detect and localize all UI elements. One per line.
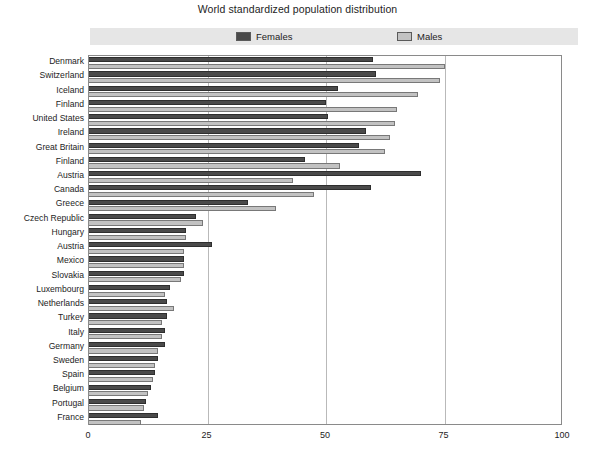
y-axis-label: Czech Republic — [0, 214, 84, 223]
bar-row — [89, 127, 561, 141]
bar-males[interactable] — [89, 107, 397, 112]
bar-males[interactable] — [89, 135, 390, 140]
bar-females[interactable] — [89, 100, 326, 105]
bar-females[interactable] — [89, 285, 170, 290]
bar-females[interactable] — [89, 356, 158, 361]
bar-males[interactable] — [89, 220, 203, 225]
bar-females[interactable] — [89, 228, 186, 233]
chart-root: World standardized population distributi… — [0, 0, 595, 453]
bar-row — [89, 284, 561, 298]
bar-females[interactable] — [89, 143, 359, 148]
bar-males[interactable] — [89, 377, 153, 382]
bar-males[interactable] — [89, 391, 148, 396]
bar-row — [89, 170, 561, 184]
legend-entry-males[interactable]: Males — [397, 32, 442, 42]
chart-legend: Females Males — [90, 28, 578, 45]
y-axis-label: Slovakia — [0, 271, 84, 280]
bar-row — [89, 156, 561, 170]
bar-females[interactable] — [89, 171, 421, 176]
bar-females[interactable] — [89, 399, 146, 404]
y-axis-label: Sweden — [0, 356, 84, 365]
bar-males[interactable] — [89, 92, 418, 97]
bar-row — [89, 369, 561, 383]
bar-females[interactable] — [89, 342, 165, 347]
bar-males[interactable] — [89, 192, 314, 197]
y-axis-label: Great Britain — [0, 143, 84, 152]
y-axis-label: Germany — [0, 342, 84, 351]
bar-row — [89, 269, 561, 283]
bar-row — [89, 141, 561, 155]
bar-females[interactable] — [89, 185, 371, 190]
bar-males[interactable] — [89, 163, 340, 168]
bar-females[interactable] — [89, 370, 155, 375]
legend-swatch-females-icon — [236, 32, 251, 41]
bar-males[interactable] — [89, 149, 385, 154]
bar-row — [89, 255, 561, 269]
y-axis-label: Denmark — [0, 57, 84, 66]
y-axis-label: Canada — [0, 185, 84, 194]
y-axis-label: France — [0, 413, 84, 422]
bar-females[interactable] — [89, 271, 184, 276]
bar-males[interactable] — [89, 277, 181, 282]
bar-females[interactable] — [89, 256, 184, 261]
bar-row — [89, 184, 561, 198]
y-axis-label: United States — [0, 114, 84, 123]
x-tick-label-50: 50 — [320, 430, 330, 440]
bar-row — [89, 312, 561, 326]
bar-females[interactable] — [89, 128, 366, 133]
bar-males[interactable] — [89, 235, 186, 240]
y-axis-label: Spain — [0, 370, 84, 379]
y-axis-label: Switzerland — [0, 71, 84, 80]
bar-males[interactable] — [89, 78, 440, 83]
y-axis-label: Belgium — [0, 384, 84, 393]
chart-title: World standardized population distributi… — [0, 3, 595, 15]
y-axis-label: Finland — [0, 157, 84, 166]
bar-females[interactable] — [89, 242, 212, 247]
bar-males[interactable] — [89, 178, 293, 183]
bar-row — [89, 326, 561, 340]
bar-females[interactable] — [89, 385, 151, 390]
y-axis-label: Iceland — [0, 86, 84, 95]
bar-females[interactable] — [89, 157, 305, 162]
y-axis-label: Italy — [0, 328, 84, 337]
x-tick-label-0: 0 — [85, 430, 90, 440]
bar-females[interactable] — [89, 413, 158, 418]
bar-females[interactable] — [89, 71, 376, 76]
legend-swatch-males-icon — [397, 32, 412, 41]
bar-males[interactable] — [89, 64, 445, 69]
bar-females[interactable] — [89, 114, 328, 119]
bar-rows — [89, 56, 561, 424]
bar-males[interactable] — [89, 348, 158, 353]
bar-males[interactable] — [89, 249, 184, 254]
bar-males[interactable] — [89, 320, 162, 325]
y-axis-label: Ireland — [0, 128, 84, 137]
bar-row — [89, 241, 561, 255]
bar-row — [89, 341, 561, 355]
bar-males[interactable] — [89, 121, 395, 126]
bar-males[interactable] — [89, 263, 184, 268]
bar-row — [89, 355, 561, 369]
bar-females[interactable] — [89, 313, 167, 318]
bar-females[interactable] — [89, 328, 165, 333]
bar-row — [89, 398, 561, 412]
bar-males[interactable] — [89, 334, 162, 339]
bar-females[interactable] — [89, 57, 373, 62]
bar-males[interactable] — [89, 405, 144, 410]
bar-males[interactable] — [89, 292, 165, 297]
bar-males[interactable] — [89, 420, 141, 425]
bar-males[interactable] — [89, 206, 276, 211]
bar-males[interactable] — [89, 306, 174, 311]
x-tick-label-25: 25 — [201, 430, 211, 440]
bar-row — [89, 383, 561, 397]
y-axis-label: Netherlands — [0, 299, 84, 308]
bar-males[interactable] — [89, 363, 155, 368]
bar-females[interactable] — [89, 200, 248, 205]
bar-row — [89, 56, 561, 70]
legend-entry-females[interactable]: Females — [236, 32, 292, 42]
bar-females[interactable] — [89, 86, 338, 91]
bar-row — [89, 99, 561, 113]
y-axis-label: Hungary — [0, 228, 84, 237]
bar-females[interactable] — [89, 299, 167, 304]
x-tick-label-100: 100 — [554, 430, 569, 440]
bar-females[interactable] — [89, 214, 196, 219]
